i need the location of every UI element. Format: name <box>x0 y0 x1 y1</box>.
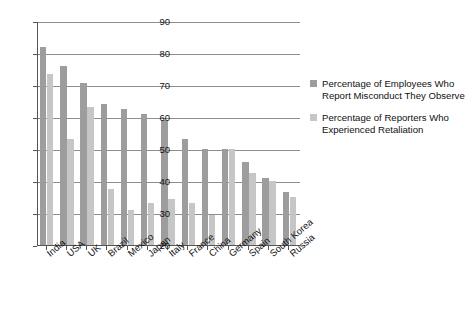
legend-swatch-series-2 <box>310 114 317 121</box>
legend-label-series-2: Percentage of Reporters Who Experienced … <box>322 112 449 135</box>
bar-france-report-misconduct <box>182 139 188 245</box>
legend-label-series-1-line1: Percentage of Employees Who <box>322 78 454 89</box>
legend-item-experienced-retaliation: Percentage of Reporters Who Experienced … <box>310 112 473 135</box>
bar-mexico-report-misconduct <box>121 109 127 245</box>
legend-label-series-1: Percentage of Employees Who Report Misco… <box>322 78 465 101</box>
bar-usa-experienced-retaliation <box>67 139 73 245</box>
y-axis-tick-mark-20 <box>33 246 37 247</box>
y-axis-tick-mark-90 <box>33 22 37 23</box>
legend-label-series-1-line2: Report Misconduct They Observe <box>322 90 465 101</box>
bar-india-experienced-retaliation <box>47 74 53 245</box>
legend-item-report-misconduct: Percentage of Employees Who Report Misco… <box>310 78 473 101</box>
y-axis-tick-mark-60 <box>33 118 37 119</box>
y-axis-tick-label-30: 30 <box>144 209 170 219</box>
y-axis-tick-label-80: 80 <box>144 49 170 59</box>
bar-china-report-misconduct <box>202 149 208 245</box>
legend-label-series-2-line2: Experienced Retaliation <box>322 124 423 135</box>
bar-chart: Percentage of Employees Who Report Misco… <box>0 0 475 310</box>
bar-germany-report-misconduct <box>222 149 228 245</box>
bar-germany-experienced-retaliation <box>229 149 235 245</box>
bar-south-korea-experienced-retaliation <box>269 181 275 245</box>
y-axis-tick-mark-40 <box>33 182 37 183</box>
legend-swatch-series-1 <box>310 80 317 87</box>
y-axis-tick-mark-70 <box>33 86 37 87</box>
bar-india-report-misconduct <box>40 47 46 245</box>
y-axis-tick-mark-80 <box>33 54 37 55</box>
bar-mexico-experienced-retaliation <box>128 210 134 245</box>
y-axis-tick-label-70: 70 <box>144 81 170 91</box>
y-axis-tick-mark-50 <box>33 150 37 151</box>
y-axis-tick-label-40: 40 <box>144 177 170 187</box>
y-axis-tick-mark-30 <box>33 214 37 215</box>
bar-brazil-experienced-retaliation <box>108 189 114 245</box>
legend-label-series-2-line1: Percentage of Reporters Who <box>322 112 449 123</box>
bar-uk-report-misconduct <box>80 83 86 245</box>
bar-france-experienced-retaliation <box>189 203 195 245</box>
y-axis-tick-label-60: 60 <box>144 113 170 123</box>
bar-uk-experienced-retaliation <box>87 107 93 245</box>
y-axis-tick-label-50: 50 <box>144 145 170 155</box>
bar-usa-report-misconduct <box>60 66 66 245</box>
chart-legend: Percentage of Employees Who Report Misco… <box>310 78 473 146</box>
bar-brazil-report-misconduct <box>101 104 107 245</box>
y-axis-tick-label-90: 90 <box>144 17 170 27</box>
